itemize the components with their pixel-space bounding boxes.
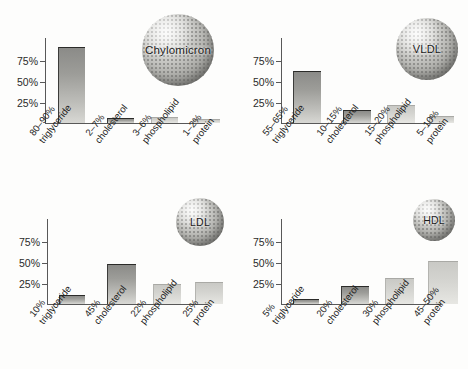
y-tick-75 (40, 61, 45, 62)
y-tick-50 (276, 82, 281, 83)
y-tick-label-75: 75% (17, 55, 38, 67)
panel-hdl: HDL 75% 50% 25% 5% triglyceride 20% chol… (234, 185, 468, 369)
y-tick-label-50: 50% (19, 257, 40, 269)
y-tick-label-50: 50% (253, 76, 274, 88)
y-tick-25 (42, 284, 47, 285)
x-axis (45, 123, 205, 124)
y-tick-25 (40, 103, 45, 104)
y-tick-label-75: 75% (253, 236, 274, 248)
y-tick-label-50: 50% (17, 76, 38, 88)
y-tick-label-25: 25% (19, 278, 40, 290)
y-tick-label-25: 25% (17, 97, 38, 109)
y-tick-50 (42, 263, 47, 264)
y-tick-label-50: 50% (253, 257, 274, 269)
x-axis (281, 123, 441, 124)
y-tick-50 (40, 82, 45, 83)
y-tick-label-25: 25% (253, 278, 274, 290)
y-tick-label-75: 75% (253, 55, 274, 67)
y-tick-label-25: 25% (253, 97, 274, 109)
plot-area-hdl: 75% 50% 25% (281, 219, 441, 305)
y-tick-75 (276, 61, 281, 62)
y-tick-50 (276, 263, 281, 264)
y-tick-label-75: 75% (19, 236, 40, 248)
y-tick-75 (42, 242, 47, 243)
y-tick-75 (276, 242, 281, 243)
lipoprotein-panel-grid: Chylomicron 75% 50% 25% 80–90% triglycer… (0, 0, 468, 369)
panel-vldl: VLDL 75% 50% 25% 55–65% triglyceride 10–… (234, 0, 468, 185)
x-axis (47, 304, 207, 305)
plot-area-vldl: 75% 50% 25% (281, 38, 441, 124)
panel-chylomicron: Chylomicron 75% 50% 25% 80–90% triglycer… (0, 0, 234, 185)
panel-ldl: LDL 75% 50% 25% 10% triglyceride 45% cho… (0, 185, 234, 369)
